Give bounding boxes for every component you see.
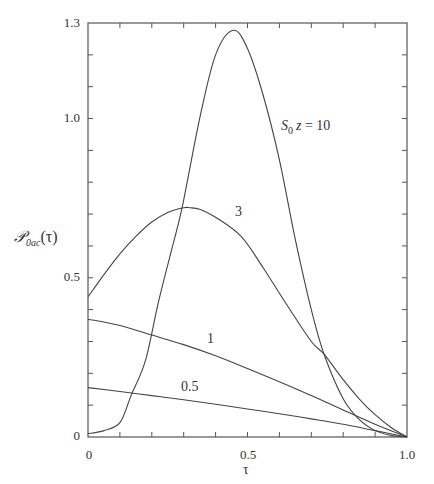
x-tick-label-0.5: 0.5 — [233, 447, 263, 463]
y-tick-label-1.3: 1.3 — [50, 15, 80, 31]
y-axis-label-main: 𝒫 — [14, 228, 26, 245]
curve-series-0.5 — [88, 388, 407, 437]
x-tick-label-0: 0 — [74, 447, 104, 463]
curve-label-3: 3 — [235, 204, 242, 220]
y-tick-label-1.0: 1.0 — [50, 110, 80, 126]
chart-canvas — [0, 0, 434, 484]
y-axis-label: 𝒫0ac(τ) — [14, 228, 58, 248]
y-axis-label-arg: (τ) — [40, 228, 57, 245]
plot-frame — [88, 23, 407, 437]
y-axis-label-sub: 0ac — [26, 237, 40, 248]
curves — [88, 30, 407, 437]
x-axis-label: τ — [243, 462, 249, 478]
curve-label-10-sub: 0 — [288, 125, 293, 136]
curve-label-0.5: 0.5 — [181, 379, 199, 395]
curve-label-10: S0z = 10 — [281, 118, 330, 136]
curve-label-10-eq: = 10 — [301, 118, 330, 133]
axis-ticks — [88, 23, 407, 437]
curve-series-S0z-10 — [88, 30, 407, 437]
y-tick-label-0.5: 0.5 — [50, 269, 80, 285]
curve-label-1: 1 — [207, 331, 214, 347]
curve-series-3 — [88, 207, 407, 437]
y-tick-label-0: 0 — [50, 428, 80, 444]
curve-label-10-s: S — [281, 118, 288, 133]
x-tick-label-1.0: 1.0 — [392, 447, 422, 463]
